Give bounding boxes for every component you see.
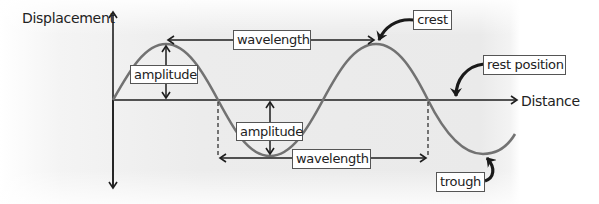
wave-diagram: Displacement Distance wavelength amplitu… [0, 0, 599, 204]
x-axis-label: Distance [521, 92, 580, 110]
amplitude-bottom-label: amplitude [236, 122, 303, 141]
wavelength-bottom-label: wavelength [292, 149, 371, 169]
rest-position-label: rest position [483, 55, 566, 75]
amplitude-top-label: amplitude [130, 65, 198, 84]
trough-label: trough [436, 172, 485, 192]
wavelength-top-label: wavelength [233, 30, 311, 50]
crest-callout-arrow [379, 20, 414, 40]
crest-label: crest [413, 10, 452, 30]
rest-position-callout-arrow [456, 64, 484, 96]
trough-callout-arrow [485, 158, 493, 181]
y-axis-label: Displacement [22, 9, 115, 27]
